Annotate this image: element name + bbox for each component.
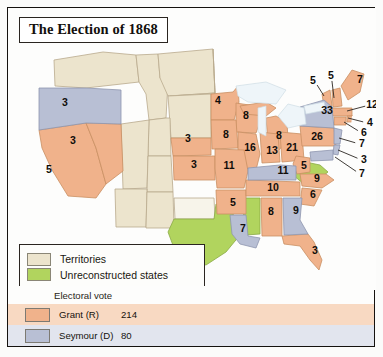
- state-massachusetts: [332, 108, 352, 116]
- legend-item-territories: Territories: [27, 253, 197, 266]
- state-nebraska: [171, 138, 211, 156]
- state-alabama: [261, 198, 282, 236]
- state-votes-iowa: 8: [223, 128, 229, 140]
- state-votes-wisconsin: 8: [243, 109, 249, 121]
- state-votes-louisiana: 7: [240, 222, 246, 234]
- electoral-votes-grant: 214: [121, 309, 137, 320]
- legend-label-unreconstructed: Unreconstructed states: [60, 269, 168, 281]
- electoral-row-seymour: Seymour (D) 80: [8, 325, 374, 346]
- state-kentucky: [248, 165, 296, 180]
- state-votes-tennessee: 10: [267, 181, 279, 193]
- state-votes-missouri: 11: [223, 159, 234, 171]
- state-votes-oregon: 3: [62, 96, 68, 108]
- state-votes-kentucky: 11: [277, 164, 288, 176]
- state-votes-north-carolina: 9: [314, 172, 320, 184]
- territory-arizona: [115, 189, 147, 227]
- territory-montana: [158, 49, 215, 96]
- state-oregon: [39, 88, 121, 130]
- territory-colorado: [147, 156, 173, 192]
- callout-votes-new-hampshire: 5: [328, 69, 334, 81]
- territory-indian: [174, 198, 215, 219]
- state-votes-illinois: 16: [244, 141, 256, 153]
- callout-votes-rhode-island: 4: [367, 116, 373, 128]
- territory-utah: [121, 120, 149, 189]
- state-maryland: [310, 150, 333, 161]
- state-votes-california: 5: [46, 163, 52, 175]
- electoral-votes-seymour: 80: [121, 330, 132, 341]
- state-votes-ohio: 21: [286, 141, 298, 153]
- callout-votes-new-jersey: 7: [359, 137, 365, 149]
- territory-new-mexico: [146, 192, 174, 228]
- state-votes-west-virginia: 5: [301, 159, 307, 171]
- state-votes-kansas: 3: [191, 158, 197, 170]
- callout-votes-maryland: 7: [359, 167, 365, 179]
- state-votes-indiana: 13: [266, 144, 278, 156]
- electoral-swatch-seymour: [25, 329, 50, 343]
- state-votes-michigan: 8: [276, 129, 282, 141]
- callout-votes-maine: 7: [357, 73, 363, 85]
- map-figure-frame: 335488383161321115711108936952633 557124…: [7, 7, 375, 347]
- map-legend: Territories Unreconstructed states: [19, 244, 205, 290]
- electoral-name-seymour: Seymour (D): [59, 330, 121, 341]
- state-connecticut: [334, 117, 346, 125]
- electoral-vote-heading: Electoral vote: [8, 286, 374, 304]
- legend-item-unreconstructed: Unreconstructed states: [27, 268, 197, 281]
- legend-swatch-unreconstructed: [27, 268, 51, 281]
- state-votes-georgia: 9: [293, 204, 299, 216]
- legend-label-territories: Territories: [60, 253, 106, 265]
- territory-wyoming: [148, 118, 171, 156]
- electoral-vote-panel: Electoral vote Grant (R) 214 Seymour (D)…: [8, 286, 374, 346]
- page-title: The Election of 1868: [29, 21, 158, 38]
- state-votes-nevada: 3: [70, 134, 76, 146]
- callout-votes-vermont: 5: [310, 74, 316, 86]
- callout-votes-massachusetts: 12: [366, 98, 376, 110]
- state-votes-florida: 3: [312, 244, 318, 256]
- state-votes-south-carolina: 6: [310, 188, 316, 200]
- electoral-name-grant: Grant (R): [59, 309, 121, 320]
- electoral-swatch-grant: [25, 308, 50, 322]
- map-title-box: The Election of 1868: [19, 17, 168, 43]
- electoral-row-grant: Grant (R) 214: [8, 304, 374, 325]
- legend-swatch-territories: [27, 253, 51, 266]
- state-votes-minnesota: 4: [215, 94, 221, 106]
- state-votes-alabama: 8: [268, 205, 274, 217]
- state-votes-new-york: 33: [321, 104, 333, 116]
- lake-michigan: [258, 106, 266, 136]
- state-votes-pennsylvania: 26: [311, 130, 323, 142]
- callout-votes-delaware: 3: [361, 153, 367, 165]
- state-votes-nebraska: 3: [185, 132, 191, 144]
- state-votes-arkansas: 5: [230, 196, 236, 208]
